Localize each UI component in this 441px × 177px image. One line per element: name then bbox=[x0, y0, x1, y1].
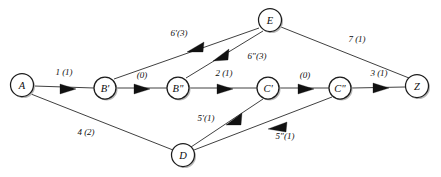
node-b-double-prime-label: B" bbox=[173, 83, 184, 94]
node-z-label: Z bbox=[414, 81, 420, 92]
arrowhead-cdprime-z bbox=[373, 83, 389, 93]
node-a[interactable]: A bbox=[11, 74, 36, 99]
node-c-prime[interactable]: C' bbox=[257, 77, 281, 101]
edge-label-d-cdprime: 5"(1) bbox=[276, 131, 295, 141]
node-d[interactable]: D bbox=[172, 144, 197, 169]
node-c-prime-label: C' bbox=[263, 83, 273, 94]
arrowhead-d-cprime bbox=[226, 113, 242, 125]
edge-line-d-cdprime bbox=[194, 97, 332, 150]
edge-label-bprime-bdprime: (0) bbox=[137, 70, 148, 80]
node-b-double-prime[interactable]: B" bbox=[167, 77, 191, 101]
edge-label-a-bprime: 1 (1) bbox=[55, 67, 72, 77]
edge-label-cprime-cdprime: (0) bbox=[300, 70, 311, 80]
node-d-label: D bbox=[178, 150, 187, 161]
edge-line-a-d bbox=[31, 94, 173, 150]
edge-label-cdprime-z: 3 (1) bbox=[369, 68, 387, 78]
arrowhead-e-bprime bbox=[187, 42, 204, 52]
arrowhead-a-bprime bbox=[60, 84, 76, 94]
graph-figure: A B' B" C' C" bbox=[0, 0, 441, 177]
arrowhead-bprime-bdprime bbox=[134, 84, 150, 94]
arrowhead-bdprime-e bbox=[213, 49, 229, 61]
node-c-double-prime-label: C" bbox=[334, 83, 346, 94]
node-b-prime[interactable]: B' bbox=[94, 77, 118, 101]
edge-label-e-z: 7 (1) bbox=[348, 34, 365, 44]
edge-line-d-cprime bbox=[191, 99, 263, 147]
arrowhead-cprime-cdprime bbox=[298, 84, 314, 94]
node-b-prime-label: B' bbox=[101, 83, 110, 94]
node-a-label: A bbox=[18, 80, 26, 91]
graph-canvas: A B' B" C' C" bbox=[0, 0, 441, 177]
edge-label-d-cprime: 5'(1) bbox=[198, 113, 215, 123]
arrowhead-bdprime-cprime bbox=[217, 84, 233, 94]
edge-label-e-bprime: 6'(3) bbox=[171, 28, 188, 38]
edge-label-bdprime-cprime: 2 (1) bbox=[215, 68, 232, 78]
node-z[interactable]: Z bbox=[406, 75, 431, 100]
node-e[interactable]: E bbox=[259, 9, 284, 34]
node-c-double-prime[interactable]: C" bbox=[329, 77, 353, 101]
edge-label-a-d: 4 (2) bbox=[77, 127, 94, 137]
node-e-label: E bbox=[266, 15, 274, 26]
edge-label-bdprime-e: 6"(3) bbox=[248, 51, 267, 61]
